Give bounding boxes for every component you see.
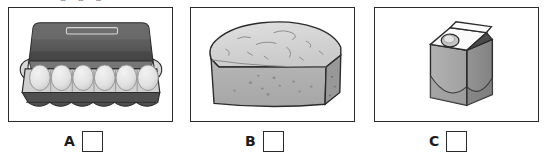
egg bbox=[116, 65, 137, 91]
panel-b-bread-loaf[interactable] bbox=[190, 7, 355, 122]
egg-carton-illustration bbox=[9, 8, 172, 121]
egg bbox=[94, 65, 115, 91]
answer-option-b[interactable]: B bbox=[245, 128, 284, 154]
worksheet-page: p p p bbox=[0, 0, 546, 162]
bread-top-crust bbox=[210, 22, 341, 67]
carton-back-wall bbox=[29, 61, 153, 69]
answer-checkbox-c[interactable] bbox=[446, 131, 467, 152]
panel-c-milk-carton[interactable] bbox=[374, 7, 539, 122]
clipped-header-text: p p p bbox=[0, 0, 546, 1]
carton-handle-slot bbox=[66, 28, 117, 34]
answer-checkbox-b[interactable] bbox=[263, 131, 284, 152]
panel-a-egg-carton[interactable] bbox=[8, 7, 173, 122]
egg bbox=[73, 65, 94, 91]
egg bbox=[51, 65, 72, 91]
answer-option-c[interactable]: C bbox=[429, 128, 467, 154]
carton-lid bbox=[29, 23, 153, 61]
carton-cup-row bbox=[22, 93, 160, 107]
egg bbox=[138, 65, 159, 91]
answer-letter-a: A bbox=[64, 134, 75, 148]
answer-checkbox-a[interactable] bbox=[82, 131, 103, 152]
milk-carton-illustration bbox=[375, 8, 538, 121]
answer-letter-c: C bbox=[429, 134, 439, 148]
image-panel-row bbox=[0, 7, 546, 123]
bread-loaf-illustration bbox=[191, 8, 354, 121]
answer-row: A B C bbox=[0, 128, 546, 158]
answer-letter-b: B bbox=[245, 134, 256, 148]
answer-option-a[interactable]: A bbox=[64, 128, 103, 154]
carton-cap-highlight bbox=[444, 35, 455, 43]
egg bbox=[30, 65, 51, 91]
